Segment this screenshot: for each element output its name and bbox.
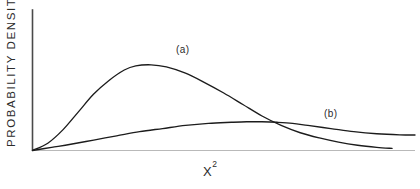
x-axis-label-exponent: 2 — [212, 159, 217, 169]
y-axis-label: PROBABILITY DENSITY — [5, 0, 17, 147]
x-axis-label-base: X — [203, 164, 212, 179]
curve-series-a — [33, 65, 393, 151]
curve-label-a: (a) — [176, 44, 189, 55]
x-axis-label: X2 — [203, 159, 217, 179]
curve-series-b — [33, 122, 416, 151]
chart-figure: PROBABILITY DENSITY X2 (a) (b) — [0, 0, 420, 189]
chart-svg: PROBABILITY DENSITY X2 (a) (b) — [0, 0, 420, 189]
curve-label-b: (b) — [324, 108, 337, 119]
